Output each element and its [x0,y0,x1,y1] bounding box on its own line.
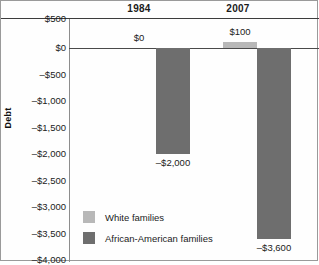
legend-swatch-icon [83,232,95,244]
value-label-white-families-2007: $100 [210,26,270,37]
bar-african-american-families-2007 [257,48,291,239]
bar-white-families-2007 [223,42,257,48]
y-axis-tick-label: –$1,500 [4,122,66,133]
value-label-african-american-families-1984: –$2,000 [143,157,203,168]
legend-label: White families [105,212,164,223]
y-axis-tick-label: –$2,500 [4,175,66,186]
y-axis-tick-label: –$4,000 [4,254,66,265]
group-label-1984: 1984 [109,3,169,14]
y-axis-tick-label: –$500 [4,69,66,80]
group-label-2007: 2007 [208,3,268,14]
y-axis-tick-label: –$3,000 [4,201,66,212]
bar-african-american-families-1984 [156,48,190,154]
legend-item-african-american-families[interactable]: African-American families [83,232,213,244]
y-axis-tick-label: –$3,500 [4,228,66,239]
value-label-white-families-1984: $0 [109,32,169,43]
y-axis-tick-label: $0 [4,42,66,53]
legend-item-white-families[interactable]: White families [83,211,213,223]
y-axis-tick-label: –$2,000 [4,148,66,159]
legend: White families African-American families [83,211,213,253]
value-label-african-american-families-2007: –$3,600 [244,242,304,253]
legend-label: African-American families [105,233,213,244]
legend-swatch-icon [83,211,95,223]
y-axis-spine [69,19,70,262]
y-axis-tick-label: $500 [4,13,66,24]
y-axis-tick-label: –$1,000 [4,95,66,106]
